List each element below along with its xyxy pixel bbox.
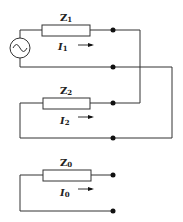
terminal-dot xyxy=(111,101,116,106)
terminal-dot xyxy=(111,65,116,70)
arrowhead-icon xyxy=(88,115,94,119)
impedance-z1 xyxy=(42,25,90,36)
z0-label: Z0 xyxy=(60,157,72,169)
z1-label: Z1 xyxy=(60,12,72,24)
circuit-diagram: Z1 I1 Z2 I2 Z0 I0 xyxy=(0,0,183,222)
i1-label: I1 xyxy=(57,41,68,53)
wire xyxy=(20,58,113,67)
terminal-dot xyxy=(111,28,116,33)
source-loop: Z1 I1 xyxy=(10,12,113,67)
impedance-z2 xyxy=(43,98,90,109)
i2-label: I2 xyxy=(59,115,70,127)
z2-loop: Z2 I2 xyxy=(20,85,113,138)
wire xyxy=(20,30,42,38)
arrowhead-icon xyxy=(88,187,94,191)
terminal-dot xyxy=(111,209,116,214)
sine-wave-icon xyxy=(13,45,27,52)
z2-label: Z2 xyxy=(60,85,72,97)
impedance-z0 xyxy=(43,170,91,181)
terminal-dot xyxy=(111,136,116,141)
arrowhead-icon xyxy=(88,43,94,47)
z0-loop: Z0 I0 xyxy=(20,157,113,211)
i0-label: I0 xyxy=(59,187,70,199)
terminal-dot xyxy=(111,173,116,178)
